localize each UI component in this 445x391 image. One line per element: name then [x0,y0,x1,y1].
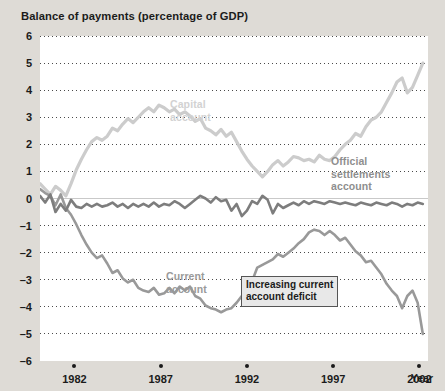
current-account-label: Currentaccount [166,270,207,295]
label-line: settlements [331,168,390,181]
x-axis-tick-dot [417,364,421,368]
x-axis-tick-dot [72,364,76,368]
x-axis-tick-label: 1992 [217,373,277,385]
label-line: Official [331,155,390,168]
official-settlements-label: Officialsettlementsaccount [331,155,390,193]
x-axis-tick-dot [331,364,335,368]
page-title: Balance of payments (percentage of GDP) [21,10,248,22]
label-line: Capital [170,98,211,111]
y-axis-tick-label: –1 [6,220,32,232]
label-line: Current [166,270,207,283]
label-line: account deficit [246,291,333,303]
y-axis-tick-label: 6 [6,30,32,42]
label-line: account [170,111,211,124]
y-axis-tick-label: –6 [6,355,32,367]
y-axis-tick-label: 1 [6,165,32,177]
y-axis-tick-label: 3 [6,111,32,123]
y-axis-tick-label: 4 [6,84,32,96]
plot-area: Capitalaccount Currentaccount Officialse… [40,36,428,361]
label-line: account [331,180,390,193]
y-axis-tick-label: 5 [6,57,32,69]
x-axis-tick-label: 1982 [44,373,104,385]
chart-canvas [40,36,428,361]
y-axis-tick-label: 2 [6,138,32,150]
y-axis-tick-label: –3 [6,274,32,286]
x-axis-tick-dot [245,364,249,368]
y-axis-tick-label: –4 [6,301,32,313]
x-axis-tick-dot [159,364,163,368]
increasing-deficit-callout: Increasing currentaccount deficit [241,276,338,307]
label-line: Increasing current [246,279,333,291]
y-axis-tick-label: –5 [6,328,32,340]
capital-account-label: Capitalaccount [170,98,211,123]
y-axis-tick-label: 0 [6,193,32,205]
x-axis-tick-label: 1987 [131,373,191,385]
label-line: account [166,283,207,296]
x-axis-title: Year [411,372,433,384]
x-axis-tick-label: 1997 [303,373,363,385]
chart-page: Balance of payments (percentage of GDP) … [0,0,445,391]
y-axis-tick-label: –2 [6,247,32,259]
